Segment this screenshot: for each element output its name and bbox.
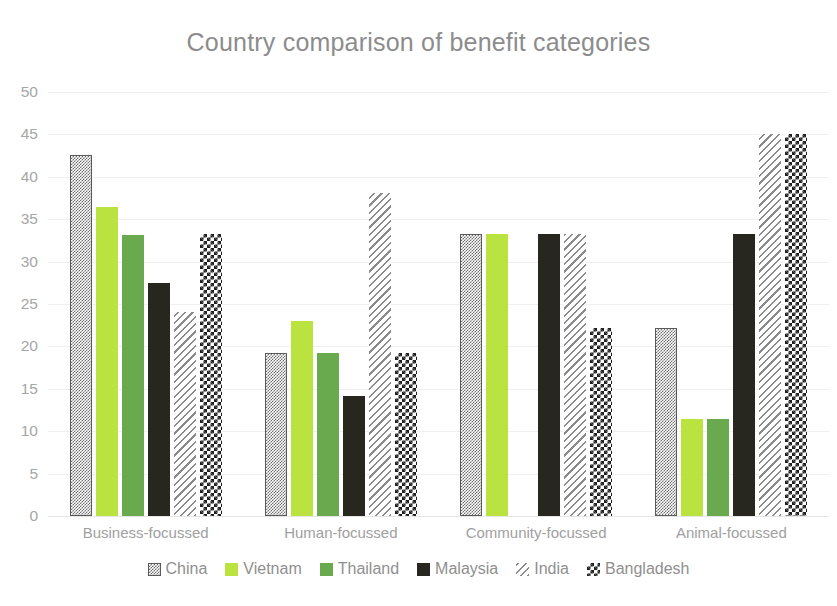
solid-swatch-icon [225, 563, 238, 576]
y-axis-tick-label: 10 [0, 422, 38, 440]
bar-group [70, 92, 222, 516]
checker-swatch-icon [587, 563, 600, 576]
legend-item-vietnam[interactable]: Vietnam [225, 560, 301, 578]
bar-thailand-human-focussed[interactable] [317, 353, 339, 516]
legend-label: Thailand [338, 560, 399, 578]
bar-bangladesh-animal-focussed[interactable] [785, 134, 807, 516]
bar-group [655, 92, 807, 516]
y-axis-tick-label: 0 [0, 507, 38, 525]
bar-india-animal-focussed[interactable] [759, 134, 781, 516]
bar-malaysia-human-focussed[interactable] [343, 396, 365, 516]
bar-malaysia-animal-focussed[interactable] [733, 234, 755, 516]
y-axis-tick-label: 30 [0, 253, 38, 271]
bar-bangladesh-business-focussed[interactable] [200, 234, 222, 516]
bar-thailand-animal-focussed[interactable] [707, 419, 729, 516]
legend-label: China [166, 560, 208, 578]
bar-vietnam-business-focussed[interactable] [96, 207, 118, 516]
legend-label: Malaysia [435, 560, 498, 578]
y-axis-tick-label: 35 [0, 210, 38, 228]
chart-legend: ChinaVietnamThailandMalaysiaIndiaBanglad… [0, 560, 837, 578]
x-axis-category-label: Community-focussed [439, 524, 634, 541]
x-axis-category-label: Animal-focussed [634, 524, 829, 541]
y-axis-tick-label: 40 [0, 168, 38, 186]
bar-vietnam-community-focussed[interactable] [486, 234, 508, 516]
legend-label: Vietnam [243, 560, 301, 578]
y-axis-tick-label: 5 [0, 465, 38, 483]
bar-bangladesh-community-focussed[interactable] [590, 328, 612, 516]
bar-china-community-focussed[interactable] [460, 234, 482, 516]
x-axis-category-label: Human-focussed [243, 524, 438, 541]
legend-item-malaysia[interactable]: Malaysia [417, 560, 498, 578]
bar-china-human-focussed[interactable] [265, 353, 287, 516]
y-axis-tick-label: 50 [0, 83, 38, 101]
bar-malaysia-business-focussed[interactable] [148, 283, 170, 516]
y-axis-tick-label: 45 [0, 125, 38, 143]
bar-thailand-business-focussed[interactable] [122, 235, 144, 516]
bar-china-business-focussed[interactable] [70, 155, 92, 516]
bar-bangladesh-human-focussed[interactable] [395, 353, 417, 516]
y-axis-tick-label: 20 [0, 337, 38, 355]
chart-title: Country comparison of benefit categories [0, 28, 837, 57]
legend-item-bangladesh[interactable]: Bangladesh [587, 560, 690, 578]
y-axis-tick-label: 25 [0, 295, 38, 313]
legend-item-india[interactable]: India [516, 560, 569, 578]
bar-india-community-focussed[interactable] [564, 234, 586, 516]
plot-area [48, 92, 829, 516]
solid-swatch-icon [320, 563, 333, 576]
legend-item-china[interactable]: China [148, 560, 208, 578]
checker-swatch-icon [148, 563, 161, 576]
legend-label: Bangladesh [605, 560, 690, 578]
bar-china-animal-focussed[interactable] [655, 328, 677, 516]
bar-india-human-focussed[interactable] [369, 193, 391, 516]
solid-swatch-icon [417, 563, 430, 576]
x-axis-category-label: Business-focussed [48, 524, 243, 541]
stripe-swatch-icon [516, 563, 529, 576]
y-axis-tick-label: 15 [0, 380, 38, 398]
bar-india-business-focussed[interactable] [174, 312, 196, 516]
bar-group [460, 92, 612, 516]
gridline [48, 516, 829, 517]
bar-group [265, 92, 417, 516]
legend-label: India [534, 560, 569, 578]
bar-vietnam-animal-focussed[interactable] [681, 419, 703, 516]
legend-item-thailand[interactable]: Thailand [320, 560, 399, 578]
bar-vietnam-human-focussed[interactable] [291, 321, 313, 516]
bar-chart: Country comparison of benefit categories… [0, 0, 837, 606]
bar-malaysia-community-focussed[interactable] [538, 234, 560, 516]
